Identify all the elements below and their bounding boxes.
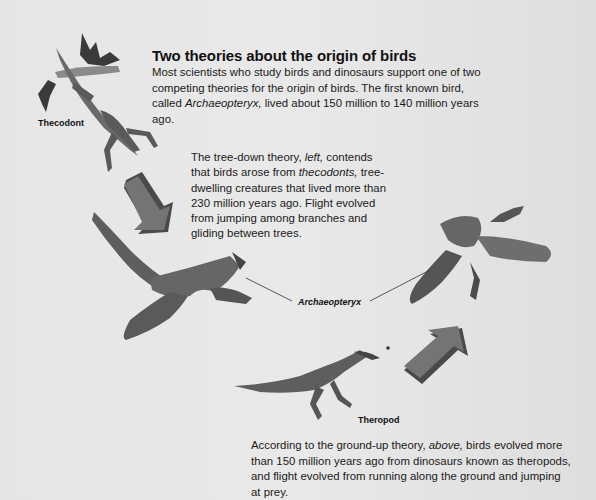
- tree-italic-1: left,: [305, 151, 323, 163]
- label-theropod: Theropod: [358, 415, 400, 425]
- archaeopteryx-right-illustration: [410, 206, 551, 304]
- insect-icon: [386, 346, 390, 350]
- theropod-illustration: [234, 346, 390, 420]
- thecodont-illustration: [38, 33, 158, 172]
- up-arrow-icon: [404, 326, 468, 384]
- tree-down-paragraph: The tree-down theory, left, contends tha…: [191, 150, 391, 242]
- ground-text-1: According to the ground-up theory,: [251, 439, 429, 451]
- ground-up-paragraph: According to the ground-up theory, above…: [251, 438, 571, 500]
- leader-line-left: [246, 278, 292, 301]
- intro-paragraph: Most scientists who study birds and dino…: [152, 65, 482, 127]
- label-archaeopteryx: Archaeopteryx: [298, 297, 361, 307]
- page-title: Two theories about the origin of birds: [152, 47, 416, 64]
- tree-italic-2: thecodonts,: [299, 166, 358, 178]
- label-thecodont: Thecodont: [38, 118, 84, 128]
- ground-italic: above,: [429, 439, 463, 451]
- intro-italic: Archaeopteryx,: [185, 97, 262, 109]
- down-arrow-icon: [124, 172, 173, 234]
- tree-text-1: The tree-down theory,: [191, 151, 305, 163]
